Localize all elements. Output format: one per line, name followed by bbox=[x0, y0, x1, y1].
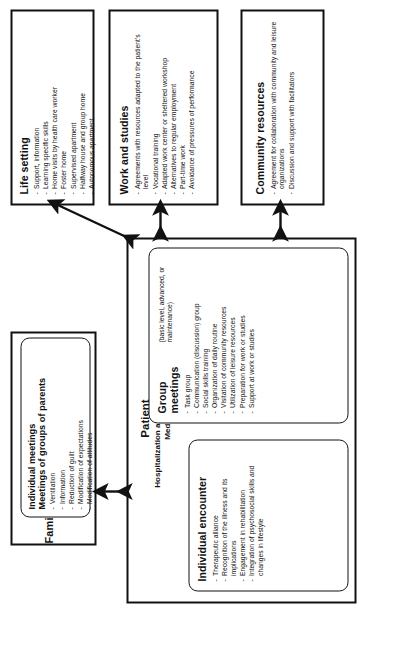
work-and-studies-title: Work and studies bbox=[118, 19, 130, 194]
connector-patient-life-setting bbox=[48, 197, 134, 243]
patient-box: Patient Hospitalization and outpatient c… bbox=[126, 237, 356, 603]
family-heading-individual-meetings: Individual meetings bbox=[26, 345, 36, 509]
list-item: Home visits by health care worker bbox=[50, 19, 59, 194]
connector-patient-family bbox=[96, 482, 128, 500]
list-item: Vocational training bbox=[151, 19, 160, 194]
life-setting-title: Life setting bbox=[18, 19, 30, 194]
community-resources-items-list: Agreement for collaboration with communi… bbox=[269, 19, 296, 194]
group-meetings-items-list: Task group Communication (discussion) gr… bbox=[183, 256, 256, 413]
list-item: Preparation for work or studies bbox=[238, 256, 247, 413]
individual-encounter-heading: Individual encounter bbox=[196, 448, 208, 581]
life-setting-box: Life setting Support, information Learni… bbox=[10, 9, 94, 205]
list-item: Organization of daily routine bbox=[210, 256, 219, 413]
family-heading-group-parents: Meetings of groups of parents bbox=[36, 345, 46, 509]
list-item: Information bbox=[58, 345, 67, 509]
list-item: Modification of attitudes bbox=[85, 345, 94, 509]
list-item: Support at work or studies bbox=[247, 256, 256, 413]
life-setting-items-list: Support, information Learning specific s… bbox=[32, 19, 96, 194]
list-item: Engagement in rehabilitation bbox=[238, 448, 247, 581]
list-item: Recognition of the illness and its impli… bbox=[220, 448, 237, 581]
individual-encounter-items-list: Therapeutic alliance Recognition of the … bbox=[211, 448, 265, 581]
group-meetings-box: Group meetings (basic level, advanced, o… bbox=[148, 247, 348, 423]
list-item: Task group bbox=[183, 256, 192, 413]
list-item: Therapeutic alliance bbox=[211, 448, 220, 581]
list-item: Learning specific skills bbox=[41, 19, 50, 194]
community-resources-title: Community resources bbox=[254, 19, 266, 194]
connector-patient-work-studies bbox=[152, 203, 168, 237]
list-item: Adapted work center or sheltered worksho… bbox=[160, 19, 169, 194]
list-item: Halfway house and group home bbox=[78, 19, 87, 194]
connector-patient-community-resources bbox=[272, 203, 288, 237]
diagram-canvas: Family Individual meetings Meetings of g… bbox=[0, 0, 393, 649]
list-item: Avoidance of pressures of performance bbox=[187, 19, 196, 194]
list-item: Autonomous apartment bbox=[87, 19, 96, 194]
list-item: Communication (discussion) group bbox=[192, 256, 201, 413]
list-item: Utilization of leisure resources bbox=[228, 256, 237, 413]
list-item: Ventilation bbox=[48, 345, 57, 509]
list-item: Visitation of community resources bbox=[219, 256, 228, 413]
family-items-list: Ventilation Information Reduction of gui… bbox=[48, 345, 93, 509]
community-resources-box: Community resources Agreement for collab… bbox=[240, 9, 324, 205]
list-item: Reduction of guilt bbox=[67, 345, 76, 509]
list-item: Support, information bbox=[32, 19, 41, 194]
family-box: Family Individual meetings Meetings of g… bbox=[10, 331, 96, 545]
individual-encounter-box: Individual encounter Therapeutic allianc… bbox=[188, 439, 348, 591]
list-item: Agreements with resources adapted to the… bbox=[133, 19, 150, 194]
family-inner-box: Individual meetings Meetings of groups o… bbox=[20, 337, 90, 517]
list-item: Integration of psychosocial skills and c… bbox=[247, 448, 264, 581]
list-item: Discussion and support with facilitators bbox=[287, 19, 296, 194]
list-item: Social skills training bbox=[201, 256, 210, 413]
work-and-studies-items-list: Agreements with resources adapted to the… bbox=[133, 19, 196, 194]
list-item: Part-time work bbox=[178, 19, 187, 194]
list-item: Agreement for collaboration with communi… bbox=[269, 19, 286, 194]
list-item: Alternatives to regular employment bbox=[169, 19, 178, 194]
list-item: Modification of expectations bbox=[76, 345, 85, 509]
group-meetings-heading: Group meetings bbox=[156, 347, 180, 413]
list-item: Supervised apartment bbox=[69, 19, 78, 194]
list-item: Foster home bbox=[59, 19, 68, 194]
work-and-studies-box: Work and studies Agreements with resourc… bbox=[108, 9, 218, 205]
family-title: Family bbox=[42, 517, 54, 543]
group-meetings-note: (basic level, advanced, or maintenance) bbox=[156, 256, 172, 342]
